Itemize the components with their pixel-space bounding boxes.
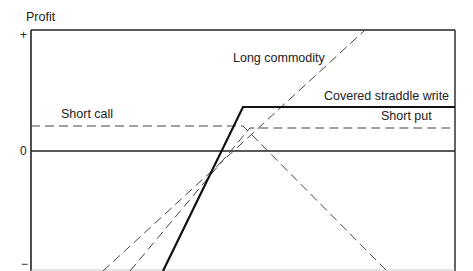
short-call-line: [31, 126, 387, 271]
y-tick-minus: −: [21, 257, 28, 271]
long-commodity-label: Long commodity: [233, 51, 325, 65]
covered-straddle-write-line: [163, 107, 455, 271]
y-axis-label: Profit: [26, 10, 55, 24]
y-tick-plus: +: [20, 28, 27, 42]
short-put-line: [130, 128, 455, 271]
short-put-label: Short put: [381, 109, 432, 123]
payoff-diagram: [0, 0, 473, 271]
y-tick-zero: 0: [20, 144, 27, 158]
short-call-label: Short call: [61, 107, 113, 121]
covered-straddle-write-label: Covered straddle write: [324, 89, 449, 103]
